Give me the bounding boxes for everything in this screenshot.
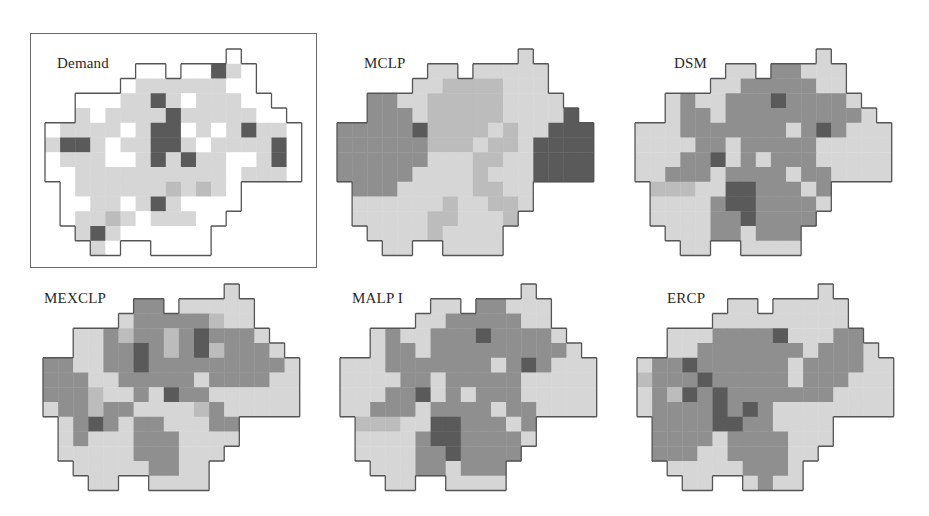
grid-cell	[788, 446, 804, 461]
grid-cell	[713, 402, 729, 417]
grid-cell	[743, 387, 759, 402]
panel-label-ercp: ERCP	[667, 290, 705, 307]
grid-cell	[758, 476, 774, 491]
grid-cell	[833, 328, 849, 343]
grid-cell	[818, 358, 834, 373]
grid-cell	[743, 432, 759, 447]
grid-cell	[788, 387, 804, 402]
grid-cell	[758, 328, 774, 343]
grid-cell	[803, 446, 819, 461]
grid-cell	[667, 328, 683, 343]
grid-cell	[773, 314, 789, 329]
grid-cell	[728, 432, 744, 447]
grid-cell	[758, 446, 774, 461]
grid-cell	[803, 314, 819, 329]
grid-cell	[667, 373, 683, 388]
grid-cell	[743, 328, 759, 343]
grid-cell	[667, 446, 683, 461]
grid-cell	[803, 387, 819, 402]
grid-cell	[713, 358, 729, 373]
grid-cell	[713, 373, 729, 388]
grid-cell	[697, 417, 713, 432]
grid-cell	[788, 476, 804, 491]
grid-cell	[697, 446, 713, 461]
grid-cell	[848, 402, 864, 417]
grid-cell	[728, 387, 744, 402]
grid-cell	[773, 373, 789, 388]
grid-cell	[833, 314, 849, 329]
grid-cell	[758, 314, 774, 329]
grid-cell	[713, 328, 729, 343]
grid-cell	[682, 387, 698, 402]
grid-cell	[682, 358, 698, 373]
grid-cell	[697, 358, 713, 373]
grid-cell	[682, 432, 698, 447]
grid-cell	[773, 446, 789, 461]
grid-cell	[833, 387, 849, 402]
grid-cell	[833, 343, 849, 358]
grid-cell	[864, 387, 880, 402]
grid-cell	[652, 402, 668, 417]
grid-cell	[818, 373, 834, 388]
grid-cell	[773, 299, 789, 314]
grid-cell	[652, 417, 668, 432]
grid-cell	[713, 387, 729, 402]
grid-cell	[818, 417, 834, 432]
grid-cell	[758, 343, 774, 358]
grid-cell	[667, 432, 683, 447]
grid-cell	[788, 358, 804, 373]
grid-cell	[697, 328, 713, 343]
grid-cell	[713, 461, 729, 476]
grid-cell	[803, 432, 819, 447]
grid-cell	[758, 373, 774, 388]
grid-cell	[728, 314, 744, 329]
grid-cell	[788, 314, 804, 329]
grid-cell	[697, 476, 713, 491]
grid-cell	[667, 358, 683, 373]
grid-cell	[803, 402, 819, 417]
grid-cell	[758, 358, 774, 373]
grid-cell	[788, 373, 804, 388]
grid-cell	[864, 358, 880, 373]
grid-cell	[788, 432, 804, 447]
grid-cell	[818, 402, 834, 417]
grid-cell	[848, 387, 864, 402]
grid-cell	[818, 299, 834, 314]
grid-cell	[879, 358, 895, 373]
grid-cell	[773, 476, 789, 491]
grid-cell	[879, 373, 895, 388]
grid-cell	[728, 358, 744, 373]
grid-cell	[667, 402, 683, 417]
grid-cell	[743, 461, 759, 476]
grid-cell	[682, 402, 698, 417]
grid-cell	[818, 328, 834, 343]
grid-cell	[864, 373, 880, 388]
grid-cell	[697, 402, 713, 417]
grid-cell	[697, 343, 713, 358]
grid-cell	[803, 328, 819, 343]
grid-cell	[713, 446, 729, 461]
grid-cell	[637, 358, 653, 373]
grid-cell	[788, 461, 804, 476]
grid-cell	[743, 358, 759, 373]
grid-cell	[743, 446, 759, 461]
grid-cell	[758, 417, 774, 432]
grid-cell	[682, 417, 698, 432]
grid-cell	[682, 328, 698, 343]
grid-cell	[713, 314, 729, 329]
grid-cell	[728, 328, 744, 343]
grid-cell	[652, 387, 668, 402]
grid-cell	[682, 446, 698, 461]
grid-cell	[743, 402, 759, 417]
grid-cell	[728, 446, 744, 461]
grid-cell	[713, 432, 729, 447]
grid-cell	[833, 402, 849, 417]
grid-cell	[728, 417, 744, 432]
grid-cell	[743, 417, 759, 432]
grid-cell	[864, 402, 880, 417]
grid-cell	[728, 299, 744, 314]
grid-cell	[637, 402, 653, 417]
grid-cell	[682, 343, 698, 358]
grid-cell	[879, 387, 895, 402]
grid-cell	[773, 387, 789, 402]
